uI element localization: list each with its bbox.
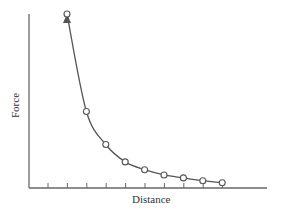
data-point-marker — [180, 175, 186, 181]
data-point-marker — [64, 11, 70, 17]
chart-container: Force Distance — [0, 0, 281, 217]
data-point-marker — [122, 159, 128, 165]
y-axis-label: Force — [9, 93, 21, 118]
data-point-marker — [200, 178, 206, 184]
data-point-marker — [219, 180, 225, 186]
data-point-marker — [142, 167, 148, 173]
data-point-marker — [161, 172, 167, 178]
data-point-marker — [83, 108, 89, 114]
data-point-marker — [103, 142, 109, 148]
force-curve — [67, 14, 222, 183]
force-distance-plot — [0, 0, 281, 217]
x-axis-label: Distance — [132, 193, 170, 205]
